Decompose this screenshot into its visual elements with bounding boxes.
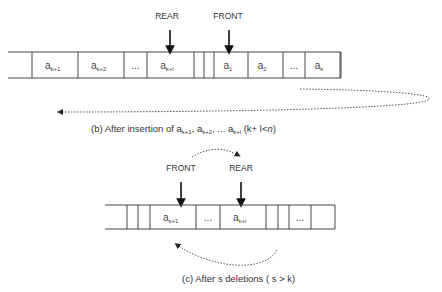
rear-label-b: REAR — [155, 11, 179, 21]
queue-c: FRONT REAR as+1...ak+l... (c) After s de… — [0, 0, 335, 284]
wrap-around-arrow-c — [177, 245, 277, 265]
queue-cell-label: ak+2 — [91, 60, 107, 72]
queue-cell-label: ak+1 — [45, 60, 61, 72]
front-label-c: FRONT — [166, 163, 195, 173]
front-label-b: FRONT — [213, 11, 242, 21]
queue-cell-label: ak+l — [233, 212, 246, 224]
caption-c: (c) After s deletions ( s > k) — [182, 273, 295, 284]
queue-cell-label: ... — [296, 212, 304, 223]
front-advance-arrow-c — [192, 149, 238, 157]
queue-cell-label: a2 — [258, 60, 268, 72]
queue-cell-label: a1 — [224, 60, 234, 72]
queue-cell-label: ak+l — [160, 60, 173, 72]
wrap-around-arrow-b — [60, 89, 430, 112]
rear-label-c: REAR — [229, 163, 253, 173]
queue-cell-label: as+1 — [163, 212, 179, 224]
circular-queue-diagram: ak+1ak+2...ak+la1a2...ak REAR FRONT (b) … — [0, 0, 442, 292]
queue-cell-label: ak — [315, 60, 325, 72]
queue-cell-label: ... — [290, 60, 298, 71]
caption-b: (b) After insertion of ak+1, ak+2, ... a… — [91, 123, 276, 135]
queue-cell-label: ... — [204, 212, 212, 223]
queue-cell-label: ... — [131, 60, 139, 71]
queue-b: ak+1ak+2...ak+la1a2...ak REAR FRONT (b) … — [0, 0, 430, 135]
